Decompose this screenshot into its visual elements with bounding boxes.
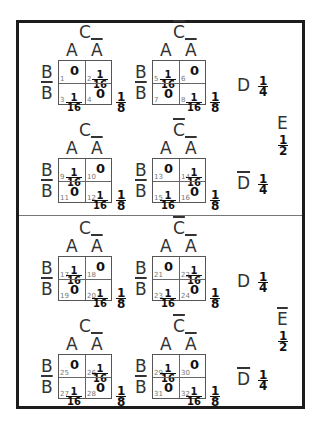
karnaugh-map: 102116311640 [58,60,112,105]
fraction-denominator: 8 [116,200,126,211]
map-sum: 18 [210,288,220,309]
map-cell: 17116 [59,257,85,279]
label-b: B [135,358,147,375]
label-a-bar: A [91,140,103,157]
label-a-bar: A [185,336,197,353]
label-c-bar: C [173,318,185,335]
fraction-numerator: 1 [96,364,105,373]
e-probability: 12 [278,135,288,156]
fraction-denominator: 8 [116,298,126,309]
cell-value: 0 [96,260,105,274]
d-probability: 14 [258,76,268,97]
cell-value: 0 [164,260,173,274]
map-cell: 27116 [59,377,85,399]
fraction-denominator: 4 [258,184,268,195]
cell-index: 1 [60,75,64,83]
cell-index: 24 [181,292,190,300]
label-c: C [79,220,91,237]
cell-fraction: 116 [66,387,82,406]
fraction-numerator: 1 [190,266,199,275]
map-cell: 70 [153,83,179,105]
cell-value: 0 [190,283,199,297]
cell-value: 0 [164,162,173,176]
map-sum: 18 [210,92,220,113]
cell-fraction: 116 [66,93,82,112]
karnaugh-map: 1301411615116160 [152,158,206,203]
label-b: B [41,260,53,277]
map-cell: 240 [179,279,205,301]
map-cell: 14116 [179,159,205,181]
karnaugh-map: 1711618019020116 [58,256,112,301]
karnaugh-map: 511660708116 [152,60,206,105]
cell-index: 28 [87,390,96,398]
fraction-denominator: 4 [258,86,268,97]
cell-fraction: 116 [160,289,176,308]
fraction-numerator: 1 [96,70,105,79]
map-cell: 22116 [179,257,205,279]
map-cell: 9116 [59,159,85,181]
fraction-denominator: 16 [92,298,108,308]
label-a: A [66,140,78,157]
map-cell: 250 [59,355,85,377]
cell-index: 6 [181,75,185,83]
label-a-bar: A [91,336,103,353]
cell-value: 116 [92,282,108,308]
cell-value: 0 [70,64,79,78]
map-cell: 3116 [59,83,85,105]
label-b-bar: B [135,379,147,396]
fraction-numerator: 1 [190,168,199,177]
fraction-numerator: 1 [70,387,79,396]
map-cell: 110 [59,181,85,203]
map-sum: 18 [116,386,126,407]
map-sum: 18 [116,190,126,211]
label-a: A [160,238,172,255]
cell-value: 0 [96,162,105,176]
cell-index: 5 [154,75,158,83]
fraction-denominator: 8 [210,200,220,211]
label-b: B [135,64,147,81]
d-probability: 14 [258,272,268,293]
label-b: B [135,260,147,277]
label-b: B [135,162,147,179]
cell-index: 11 [60,194,69,202]
cell-value: 0 [190,185,199,199]
cell-value: 116 [160,184,176,210]
cell-index: 25 [60,369,69,377]
label-b-bar: B [41,85,53,102]
map-cell: 8116 [179,83,205,105]
cell-value: 0 [70,358,79,372]
cell-fraction: 116 [186,93,202,112]
map-cell: 10 [59,61,85,83]
fraction-denominator: 8 [210,396,220,407]
fraction-numerator: 1 [190,93,199,102]
label-c: C [79,318,91,335]
e-probability: 12 [278,331,288,352]
fraction-denominator: 4 [258,282,268,293]
fraction-numerator: 1 [164,289,173,298]
map-cell: 190 [59,279,85,301]
karnaugh-map: 2911630031032116 [152,354,206,399]
map-cell: 5116 [153,61,179,83]
label-b-bar: B [41,281,53,298]
map-cell: 40 [85,83,111,105]
fraction-numerator: 1 [96,289,105,298]
cell-value: 0 [164,381,173,395]
label-a-bar: A [91,238,103,255]
map-sum: 18 [210,190,220,211]
label-a-bar: A [185,140,197,157]
cell-value: 0 [190,358,199,372]
label-a: A [66,42,78,59]
fraction-denominator: 16 [160,200,176,210]
label-b: B [41,358,53,375]
label-a: A [160,42,172,59]
map-cell: 15116 [153,181,179,203]
cell-value: 0 [70,185,79,199]
map-cell: 280 [85,377,111,399]
label-b: B [41,162,53,179]
label-c-bar: C [173,24,185,41]
label-e-bar: E [277,311,288,328]
cell-index: 3 [60,96,64,104]
cell-index: 13 [154,173,163,181]
cell-index: 30 [181,369,190,377]
map-cell: 20116 [85,279,111,301]
